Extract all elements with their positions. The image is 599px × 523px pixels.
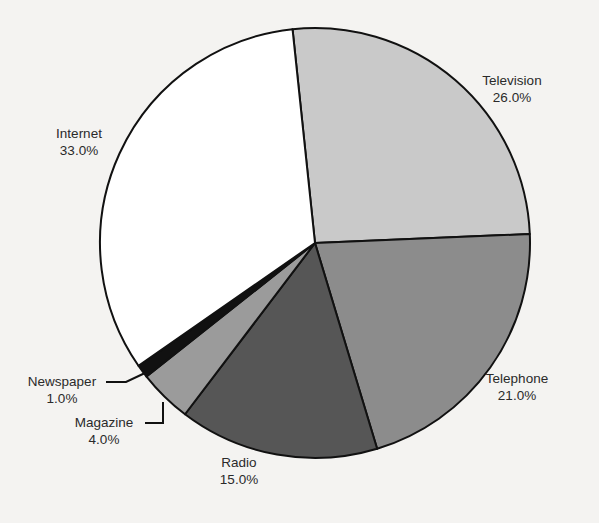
label-percent: 33.0%: [60, 143, 98, 158]
label-magazine: Magazine4.0%: [75, 415, 134, 447]
label-percent: 1.0%: [47, 391, 78, 406]
label-name: Radio: [221, 455, 256, 470]
label-television: Television26.0%: [482, 73, 541, 105]
label-name: Magazine: [75, 415, 134, 430]
label-percent: 26.0%: [493, 90, 531, 105]
leader-line-magazine: [145, 402, 163, 423]
pie-chart: Television26.0%Telephone21.0%Radio15.0%M…: [0, 0, 599, 523]
pie-slices: [100, 28, 530, 458]
label-percent: 15.0%: [220, 472, 258, 487]
slice-television: [293, 28, 530, 243]
label-name: Television: [482, 73, 541, 88]
pie-chart-canvas: Television26.0%Telephone21.0%Radio15.0%M…: [0, 0, 599, 523]
label-newspaper: Newspaper1.0%: [28, 374, 97, 406]
label-percent: 4.0%: [89, 432, 120, 447]
label-radio: Radio15.0%: [220, 455, 258, 487]
label-telephone: Telephone21.0%: [486, 371, 548, 403]
label-name: Internet: [56, 126, 102, 141]
leader-line-newspaper: [106, 373, 145, 382]
label-percent: 21.0%: [498, 388, 536, 403]
label-name: Newspaper: [28, 374, 97, 389]
label-internet: Internet33.0%: [56, 126, 102, 158]
label-name: Telephone: [486, 371, 548, 386]
